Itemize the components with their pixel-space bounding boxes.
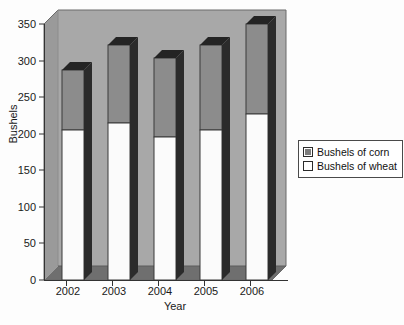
y-tick-mark-250 bbox=[39, 97, 44, 98]
legend-label-wheat: Bushels of wheat bbox=[317, 159, 397, 173]
legend-label-corn: Bushels of corn bbox=[317, 145, 389, 159]
y-tick-label-150: 150 bbox=[0, 164, 36, 176]
y-tick-label-0: 0 bbox=[0, 274, 36, 286]
x-axis-title: Year bbox=[60, 300, 290, 312]
y-axis-title: Bushels bbox=[7, 89, 19, 159]
y-tick-label-50: 50 bbox=[0, 237, 36, 249]
y-tick-mark-200 bbox=[39, 133, 44, 134]
x-tick-label-2003: 2003 bbox=[91, 285, 137, 297]
y-tick-mark-100 bbox=[39, 206, 44, 207]
y-axis-line bbox=[44, 24, 45, 280]
y-tick-label-300: 300 bbox=[0, 55, 36, 67]
y-tick-mark-150 bbox=[39, 170, 44, 171]
legend-swatch-wheat-icon bbox=[303, 161, 313, 171]
chart-container: 350 300 250 200 150 100 50 0 Bushels 200… bbox=[0, 0, 404, 325]
legend-entry-wheat: Bushels of wheat bbox=[303, 159, 397, 173]
y-tick-mark-350 bbox=[39, 24, 44, 25]
chart-legend: Bushels of corn Bushels of wheat bbox=[298, 140, 403, 178]
x-tick-label-2004: 2004 bbox=[137, 285, 183, 297]
x-tick-label-2002: 2002 bbox=[45, 285, 91, 297]
x-tick-label-2006: 2006 bbox=[229, 285, 275, 297]
y-tick-label-100: 100 bbox=[0, 201, 36, 213]
legend-swatch-corn-icon bbox=[303, 147, 313, 157]
y-tick-mark-300 bbox=[39, 60, 44, 61]
x-axis-line bbox=[44, 280, 288, 281]
y-tick-label-350: 350 bbox=[0, 18, 36, 30]
legend-entry-corn: Bushels of corn bbox=[303, 145, 397, 159]
y-tick-mark-50 bbox=[39, 243, 44, 244]
x-tick-label-2005: 2005 bbox=[183, 285, 229, 297]
y-axis: 350 300 250 200 150 100 50 0 bbox=[0, 0, 50, 325]
